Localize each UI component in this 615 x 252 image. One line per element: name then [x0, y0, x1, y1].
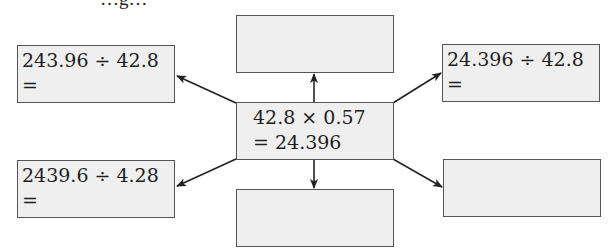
center-expression: 42.8 × 0.57 — [241, 105, 389, 130]
box-top-right[interactable]: 24.396 ÷ 42.8 = — [442, 44, 600, 102]
arrow-to-top-left — [177, 76, 236, 103]
arrow-to-bottom-right — [393, 159, 442, 187]
box-top-left[interactable]: 243.96 ÷ 42.8 = — [17, 45, 175, 103]
box-bottom-center-empty[interactable] — [236, 189, 394, 247]
box-top-center-empty[interactable] — [236, 15, 394, 73]
box-bottom-left-answer: = — [22, 188, 170, 213]
box-center-given-fact: 42.8 × 0.57 = 24.396 — [236, 102, 394, 160]
diagram-canvas: …g… 243.96 ÷ 42.8 = 24.396 ÷ 42.8 = 42.8… — [0, 0, 615, 252]
box-bottom-left[interactable]: 2439.6 ÷ 4.28 = — [17, 160, 175, 218]
center-result: = 24.396 — [241, 130, 389, 155]
arrow-to-top-right — [393, 73, 441, 103]
box-bottom-right-empty[interactable] — [443, 159, 601, 217]
box-top-right-expression: 24.396 ÷ 42.8 — [447, 47, 595, 72]
box-top-left-expression: 243.96 ÷ 42.8 — [22, 48, 170, 73]
arrow-to-bottom-left — [177, 159, 236, 186]
box-top-left-answer: = — [22, 73, 170, 98]
box-bottom-left-expression: 2439.6 ÷ 4.28 — [22, 163, 170, 188]
box-top-right-answer: = — [447, 72, 595, 97]
